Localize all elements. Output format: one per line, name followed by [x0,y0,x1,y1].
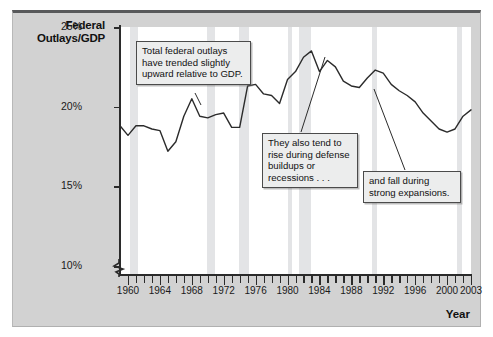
x-axis-tick-label: 2003 [460,285,482,296]
x-axis-tick [144,276,145,283]
x-axis-tick [383,276,384,285]
x-axis-tick [367,276,368,283]
y-axis-tick-label: 10% [22,259,82,271]
x-axis-tick [128,276,129,285]
x-axis-tick [447,276,448,285]
x-axis-tick [264,276,265,283]
x-axis-tick-label: 1960 [117,285,139,296]
x-axis-tick [351,276,352,285]
y-axis-tick-label: 25% [22,20,82,32]
x-axis-tick [343,276,344,283]
x-axis-tick [311,276,312,283]
x-axis-tick [399,276,400,283]
y-axis-tick [114,266,120,268]
x-axis-tick-label: 1980 [276,285,298,296]
x-axis-tick [168,276,169,283]
callout-rise: They also tend to rise during defense bu… [262,133,358,188]
x-axis-tick-label: 2000 [436,285,458,296]
y-axis-tick-label: 15% [22,179,82,191]
x-axis-tick [208,276,209,283]
y-axis-tick [114,107,120,109]
x-axis-tick [471,276,472,285]
x-axis-tick [375,276,376,283]
x-axis-tick [216,276,217,283]
x-axis-tick [192,276,193,285]
x-axis-tick [136,276,137,283]
callout-fall: and fall during strong expansions. [363,171,461,203]
x-axis-tick [288,276,289,285]
x-axis-tick [359,276,360,283]
x-axis-tick [327,276,328,283]
y-axis-tick [114,186,120,188]
y-axis-line [119,25,121,276]
x-axis-tick [176,276,177,283]
x-axis-tick [232,276,233,283]
x-axis-tick-label: 1972 [213,285,235,296]
x-axis-tick [439,276,440,283]
x-axis-tick [296,276,297,283]
x-axis-tick [240,276,241,283]
x-axis-tick-label: 1996 [404,285,426,296]
x-axis-tick-label: 1988 [340,285,362,296]
x-axis-tick [160,276,161,285]
x-axis-tick [256,276,257,285]
x-axis-tick [152,276,153,283]
x-axis-tick [423,276,424,283]
x-axis-title: Year [446,308,470,320]
x-axis-tick-label: 1964 [149,285,171,296]
x-axis-tick [407,276,408,283]
x-axis-tick [415,276,416,285]
y-axis-tick-label: 20% [22,100,82,112]
x-axis-tick [391,276,392,283]
chart-figure: Federal Outlays/GDP Year 25%20%15%10% 19… [12,10,481,327]
x-axis-tick [303,276,304,283]
x-axis-tick [224,276,225,285]
x-axis-tick [200,276,201,283]
x-axis-tick [248,276,249,283]
x-axis-tick-label: 1976 [244,285,266,296]
x-axis-tick [319,276,320,285]
x-axis-tick [184,276,185,283]
x-axis-tick [272,276,273,283]
x-axis-tick-label: 1984 [308,285,330,296]
x-axis-tick [463,276,464,283]
y-axis-tick [114,27,120,29]
x-axis-tick-label: 1992 [372,285,394,296]
x-axis-tick-label: 1968 [181,285,203,296]
x-axis-tick [335,276,336,283]
x-axis-tick [280,276,281,283]
x-axis-tick [455,276,456,283]
callout-trend: Total federal outlays have trended sligh… [136,41,251,85]
x-axis-tick [431,276,432,283]
